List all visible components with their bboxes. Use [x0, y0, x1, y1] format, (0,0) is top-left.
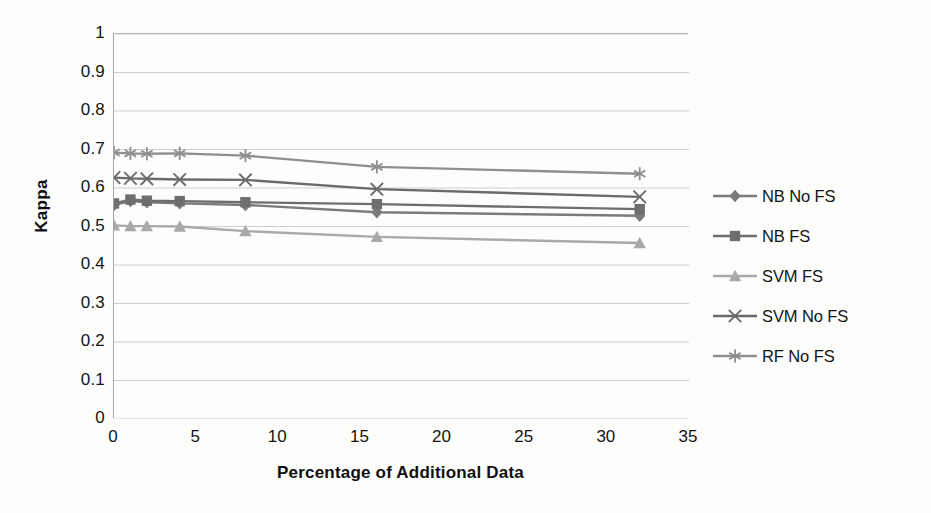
legend-item-label: NB FS	[758, 227, 810, 246]
chart-legend: NB No FSNB FSSVM FSSVM No FSRF No FS	[712, 176, 927, 376]
kappa-line-chart: 00.10.20.30.40.50.60.70.80.91 Kappa 0510…	[0, 0, 931, 513]
x-axis-tick-label: 0	[83, 428, 143, 445]
series-group	[114, 219, 646, 248]
y-axis-tick-label: 0.7	[45, 140, 105, 157]
plot-canvas	[114, 34, 689, 419]
x-axis-tick-label: 5	[165, 428, 225, 445]
y-axis-tick-label: 0.2	[45, 332, 105, 349]
x-axis-tick-label: 35	[658, 428, 718, 445]
y-axis-tick-label: 0.3	[45, 294, 105, 311]
data-point-marker	[142, 196, 152, 206]
series-group	[114, 171, 646, 203]
legend-item-rf-no-fs[interactable]: RF No FS	[712, 336, 927, 376]
series-group	[114, 146, 645, 180]
legend-item-nb-no-fs[interactable]: NB No FS	[712, 176, 927, 216]
y-axis-tick-label: 0.1	[45, 371, 105, 388]
legend-item-label: SVM FS	[758, 267, 823, 286]
data-point-marker	[729, 190, 740, 202]
y-axis-title: Kappa	[32, 146, 52, 266]
data-point-marker	[240, 197, 250, 207]
page-background: 00.10.20.30.40.50.60.70.80.91 Kappa 0510…	[0, 0, 931, 513]
y-axis-tick-label: 0.8	[45, 101, 105, 118]
legend-item-label: RF No FS	[758, 347, 835, 366]
legend-item-svm-no-fs[interactable]: SVM No FS	[712, 296, 927, 336]
x-axis-tick-label: 30	[576, 428, 636, 445]
legend-item-label: NB No FS	[758, 187, 835, 206]
series-line	[114, 178, 640, 197]
y-axis-tick-label: 0.9	[45, 63, 105, 80]
legend-item-nb-fs[interactable]: NB FS	[712, 216, 927, 256]
legend-marker-icon	[712, 307, 758, 325]
legend-marker-icon	[712, 187, 758, 205]
x-axis-tick-label: 20	[412, 428, 472, 445]
x-axis-tick-label: 10	[247, 428, 307, 445]
legend-item-label: SVM No FS	[758, 307, 848, 326]
data-point-marker	[635, 204, 645, 214]
y-axis-tick-label: 0	[45, 409, 105, 426]
x-axis-tick-labels: 05101520253035	[0, 428, 931, 458]
plot-area	[113, 33, 688, 418]
data-point-marker	[125, 194, 135, 204]
legend-item-svm-fs[interactable]: SVM FS	[712, 256, 927, 296]
data-point-marker	[730, 231, 740, 241]
legend-marker-icon	[712, 347, 758, 365]
y-axis-tick-label: 0.4	[45, 255, 105, 272]
y-axis-tick-label: 0.5	[45, 217, 105, 234]
y-axis-tick-label: 0.6	[45, 178, 105, 195]
legend-marker-icon	[712, 227, 758, 245]
legend-marker-icon	[712, 267, 758, 285]
data-point-marker	[114, 198, 119, 208]
y-axis-tick-label: 1	[45, 24, 105, 41]
data-point-marker	[175, 196, 185, 206]
x-axis-tick-label: 25	[494, 428, 554, 445]
x-axis-tick-label: 15	[329, 428, 389, 445]
x-axis-title: Percentage of Additional Data	[113, 463, 688, 483]
data-point-marker	[372, 199, 382, 209]
